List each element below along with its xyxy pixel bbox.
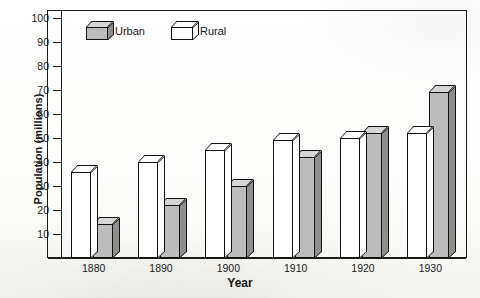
y-tick-label-80: 80 [37,60,49,72]
legend-label-rural: Rural [200,25,226,37]
y-tick-label-100: 100 [31,12,49,24]
y-tick-label-50: 50 [37,132,49,144]
y-tick-50: 50 [53,138,62,139]
legend-item-rural: Rural [171,22,226,40]
chart-legend: Urban Rural [86,22,226,40]
y-tick-40: 40 [53,162,62,163]
y-tick-80: 80 [53,66,62,67]
y-tick-30: 30 [53,186,62,187]
bar-rural-1930 [407,133,427,258]
bar-rural-1890 [138,162,158,258]
bar-rural-1910 [273,140,293,258]
y-axis-line [61,11,62,259]
legend-item-urban: Urban [86,22,145,40]
y-tick-20: 20 [53,210,62,211]
bar-chart-figure: Population (millions) 102030405060708090… [0,0,480,298]
gray-cube-icon [86,27,108,40]
y-tick-70: 70 [53,90,62,91]
x-tick-label-1910: 1910 [266,262,326,274]
bar-rural-1900 [205,150,225,258]
y-tick-label-30: 30 [37,180,49,192]
white-cube-icon [171,27,193,40]
y-tick-100: 100 [53,18,62,19]
y-tick-label-60: 60 [37,108,49,120]
x-axis-baseline [48,258,466,259]
x-tick-label-1900: 1900 [198,262,258,274]
bar-rural-1880 [71,172,91,258]
y-tick-10: 10 [53,234,62,235]
x-tick-label-1890: 1890 [131,262,191,274]
y-tick-label-90: 90 [37,36,49,48]
x-tick-label-1930: 1930 [400,262,460,274]
y-tick-label-10: 10 [37,228,49,240]
y-tick-label-20: 20 [37,204,49,216]
legend-label-urban: Urban [115,25,145,37]
x-tick-label-1920: 1920 [333,262,393,274]
bar-rural-1920 [340,138,360,258]
y-tick-label-40: 40 [37,156,49,168]
x-tick-label-1880: 1880 [64,262,124,274]
y-tick-label-70: 70 [37,84,49,96]
y-axis-title: Population (millions) [32,49,44,249]
x-axis-title: Year [0,276,480,290]
y-tick-60: 60 [53,114,62,115]
y-tick-90: 90 [53,42,62,43]
